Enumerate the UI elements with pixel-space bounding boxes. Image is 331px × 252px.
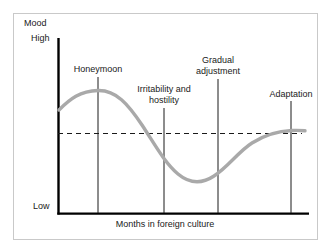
annotation-gradual-line1: Gradual (196, 55, 240, 66)
annotation-adaptation: Adaptation (269, 89, 312, 100)
annotation-gradual-adjustment: Gradual adjustment (196, 55, 240, 77)
y-axis-tick-low: Low (33, 201, 50, 212)
y-axis-title: Mood (24, 18, 47, 29)
annotation-irritability-hostility: Irritability and hostility (137, 84, 191, 106)
culture-shock-curve-figure: Mood High Low Months in foreign culture … (0, 0, 331, 252)
plot-canvas (0, 0, 331, 252)
annotation-irritability-line1: Irritability and (137, 84, 191, 95)
x-axis-title: Months in foreign culture (116, 219, 215, 230)
annotation-irritability-line2: hostility (137, 95, 191, 106)
annotation-gradual-line2: adjustment (196, 66, 240, 77)
y-axis-tick-high: High (31, 33, 50, 44)
annotation-honeymoon: Honeymoon (74, 64, 123, 75)
